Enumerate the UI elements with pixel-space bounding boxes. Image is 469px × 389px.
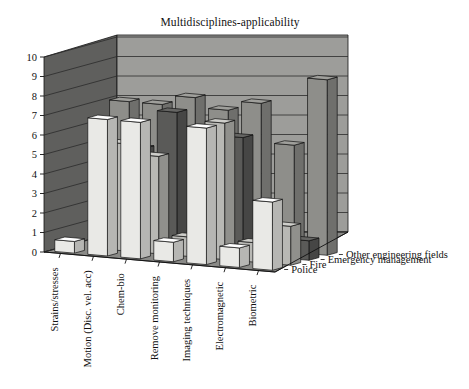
- y-axis-tick-label: 10: [27, 52, 38, 63]
- chart-container: Multidisciplines-applicability 012345678…: [0, 0, 469, 389]
- y-axis-tick-label: 0: [32, 247, 37, 258]
- y-axis-tick-label: 9: [32, 71, 37, 82]
- bar-side-face: [140, 120, 150, 259]
- bar-front-face: [88, 118, 108, 256]
- bar: [308, 75, 338, 255]
- series-axis-label: Emergency management: [328, 254, 432, 265]
- category-axis-label: Motion (Disc. vel. acc): [83, 270, 95, 368]
- y-axis-tick-label: 2: [32, 208, 37, 219]
- category-axis-label: Imaging techniques: [182, 279, 193, 362]
- category-axis-label: Strains/stresses: [50, 267, 61, 331]
- bar-side-face: [327, 77, 337, 255]
- bar-side-face: [173, 239, 183, 261]
- y-axis-tick-label: 4: [32, 169, 38, 180]
- bar: [187, 124, 217, 265]
- bar-side-face: [177, 110, 187, 249]
- category-axis-label: Biometric: [248, 284, 259, 326]
- bar-front-face: [154, 241, 174, 262]
- bar-side-face: [225, 120, 235, 259]
- bar-front-face: [187, 126, 207, 264]
- bar-side-face: [107, 117, 117, 256]
- series-axis-label: Police: [291, 264, 318, 275]
- y-axis-tick-label: 7: [32, 110, 37, 121]
- category-axis-label: Remove monitoring: [149, 275, 160, 360]
- bar-side-face: [243, 135, 253, 255]
- y-axis-tick-label: 5: [32, 149, 37, 160]
- bar-side-face: [239, 245, 249, 267]
- bar: [88, 115, 118, 256]
- y-axis-tick-label: 6: [32, 130, 37, 141]
- bar: [154, 238, 184, 262]
- y-axis: 012345678910: [27, 52, 45, 258]
- bar: [220, 243, 250, 267]
- bar-side-face: [206, 125, 216, 264]
- category-axis: Strains/stressesMotion (Disc. vel. acc)C…: [50, 253, 259, 367]
- y-axis-tick-label: 8: [32, 91, 37, 102]
- category-axis-label: Chem-bio: [116, 273, 127, 315]
- bar-front-face: [55, 240, 75, 253]
- y-axis-tick-label: 3: [32, 188, 37, 199]
- bar-side-face: [272, 199, 282, 270]
- chart-plot: 012345678910 Strains/stressesMotion (Dis…: [0, 0, 469, 389]
- bar-front-face: [308, 78, 328, 255]
- bar: [253, 198, 283, 271]
- bar-front-face: [121, 121, 141, 259]
- bar-front-face: [253, 200, 273, 270]
- y-axis-tick-label: 1: [32, 227, 37, 238]
- bar: [121, 118, 151, 259]
- category-axis-label: Electromagnetic: [215, 281, 226, 350]
- bar-front-face: [220, 246, 240, 267]
- bar: [55, 237, 85, 253]
